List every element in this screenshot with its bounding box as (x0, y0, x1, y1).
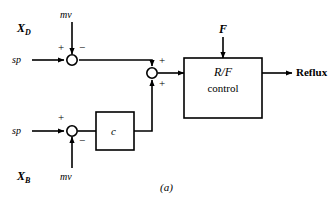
wire-c-block-to-mid-junction (134, 80, 152, 131)
sign-bottom-junction-plus: + (58, 112, 64, 123)
label-sp-top: sp (12, 55, 21, 65)
label-rf: R/F (184, 66, 262, 78)
summing-junction-middle (147, 68, 157, 78)
label-reflux-output: Reflux (296, 67, 327, 78)
wire-top-junction-to-mid-junction (79, 60, 152, 66)
label-feed-f: F (219, 23, 227, 35)
figure-caption: (a) (160, 182, 173, 193)
label-control: control (184, 83, 262, 94)
sign-mid-junction-plus-lower: + (159, 78, 165, 89)
top-loop-wires (32, 22, 152, 66)
label-mv-top: mv (60, 10, 72, 20)
sign-mid-junction-plus-upper: + (159, 55, 165, 66)
label-sp-bottom: sp (12, 126, 21, 136)
sign-top-junction-minus: − (79, 42, 85, 53)
label-xd: XD (17, 22, 31, 37)
sign-bottom-junction-minus: − (79, 135, 85, 146)
label-xb: XB (17, 170, 30, 185)
summing-junction-bottom (67, 126, 77, 136)
label-block-c: c (111, 126, 116, 137)
bottom-loop-wires (32, 80, 152, 168)
sign-top-junction-plus: + (58, 42, 64, 53)
label-mv-bottom: mv (60, 172, 72, 182)
figure-block-diagram: XD mv sp + − + + sp + − c mv XB F R/F co… (0, 0, 336, 208)
summing-junction-top (67, 55, 77, 65)
diagram-canvas (0, 0, 336, 208)
